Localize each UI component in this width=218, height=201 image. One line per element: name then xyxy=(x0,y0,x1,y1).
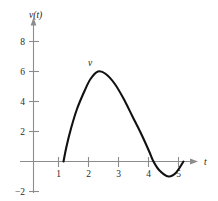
y-axis xyxy=(31,18,37,194)
curve-label: v xyxy=(88,58,93,68)
y-tick-labels: 8 6 4 2 −2 xyxy=(15,37,25,197)
x-axis xyxy=(20,159,198,165)
x-tick-label-4: 4 xyxy=(146,169,151,179)
y-tick-label-4: 4 xyxy=(20,97,25,107)
x-tick-label-1: 1 xyxy=(56,169,61,179)
y-tick-label-6: 6 xyxy=(20,67,25,77)
x-tick-label-3: 3 xyxy=(116,169,121,179)
velocity-curve xyxy=(64,71,184,176)
figure-container: 8 6 4 2 −2 1 2 3 4 5 v(t) t v xyxy=(0,0,218,201)
velocity-time-plot: 8 6 4 2 −2 1 2 3 4 5 v(t) t v xyxy=(0,0,218,201)
x-tick-label-2: 2 xyxy=(86,169,91,179)
x-axis-label: t xyxy=(204,157,207,167)
y-axis-label: v(t) xyxy=(29,10,42,21)
y-tick-label-2: 2 xyxy=(20,127,25,137)
y-tick-label-8: 8 xyxy=(20,37,25,47)
x-axis-arrow-icon xyxy=(190,159,198,165)
y-tick-label-minus-2: −2 xyxy=(15,187,25,197)
